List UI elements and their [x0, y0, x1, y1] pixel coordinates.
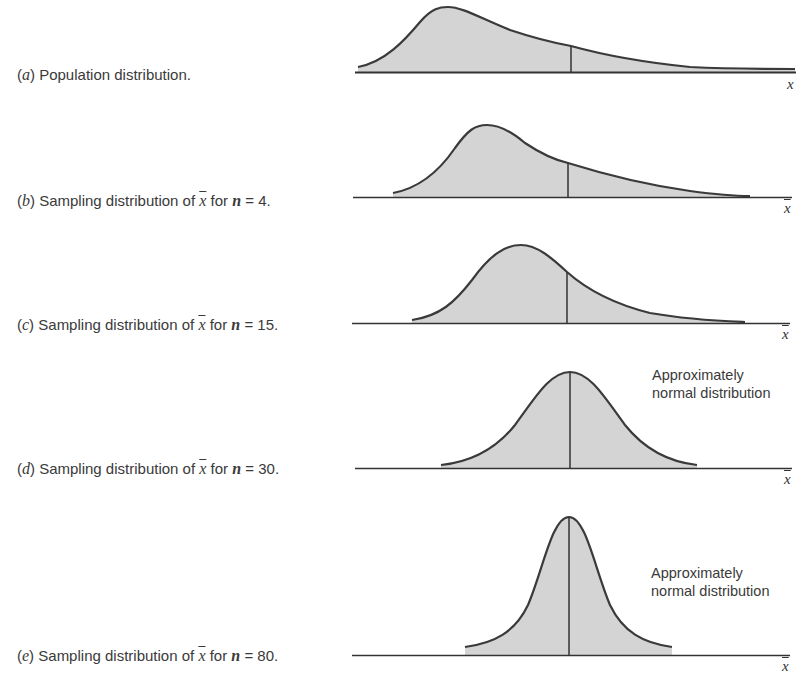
panel-c-caption: (c) Sampling distribution of x for n = 1…: [17, 316, 278, 334]
panel-d-axis-label: x: [784, 471, 791, 488]
caption-text: Sampling distribution of: [39, 460, 195, 477]
n-value: = 15.: [244, 316, 278, 333]
panel-a-plot: [355, 7, 796, 73]
panel-a-axis-label: x: [787, 76, 794, 93]
panel-e-caption: (e) Sampling distribution of x for n = 8…: [17, 647, 278, 665]
caption-text: for: [210, 647, 228, 664]
n-symbol: n: [231, 647, 240, 664]
caption-text: for: [211, 460, 229, 477]
n-value: = 4.: [245, 192, 270, 209]
panel-d-annotation: Approximately normal distribution: [652, 366, 770, 402]
panel-letter: b: [22, 192, 30, 209]
panel-b-caption: (b) Sampling distribution of x for n = 4…: [17, 192, 271, 210]
xbar-symbol: x: [198, 647, 205, 664]
panel-a-caption: (a) Population distribution.: [17, 66, 191, 84]
panel-letter: d: [22, 460, 30, 477]
xbar-symbol: x: [199, 192, 206, 209]
panel-e-annotation: Approximately normal distribution: [651, 564, 769, 600]
caption-text: Sampling distribution of: [38, 316, 194, 333]
panel-b-axis-label: x: [784, 200, 791, 217]
panel-b-plot: [353, 125, 792, 198]
annotation-line: Approximately: [652, 366, 770, 384]
xbar-symbol: x: [199, 460, 206, 477]
panel-c-axis-label: x: [782, 326, 789, 343]
caption-text: Population distribution.: [39, 66, 191, 83]
panel-letter: e: [22, 647, 29, 664]
panel-d-caption: (d) Sampling distribution of x for n = 3…: [17, 460, 279, 478]
annotation-line: normal distribution: [652, 384, 770, 402]
caption-text: Sampling distribution of: [39, 192, 195, 209]
n-value: = 80.: [244, 647, 278, 664]
n-symbol: n: [231, 316, 240, 333]
panel-c-plot: [352, 245, 790, 324]
panel-letter: c: [22, 316, 29, 333]
xbar-symbol: x: [198, 316, 205, 333]
n-symbol: n: [232, 460, 241, 477]
n-value: = 30.: [245, 460, 279, 477]
caption-text: for: [210, 316, 228, 333]
panel-e-axis-label: x: [782, 658, 789, 675]
annotation-line: Approximately: [651, 564, 769, 582]
annotation-line: normal distribution: [651, 582, 769, 600]
caption-text: for: [211, 192, 229, 209]
caption-text: Sampling distribution of: [38, 647, 194, 664]
n-symbol: n: [232, 192, 241, 209]
panel-letter: a: [22, 66, 30, 83]
